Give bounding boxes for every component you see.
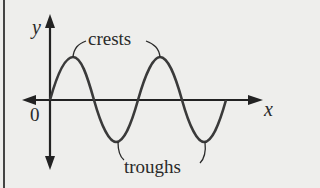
y-axis-down-arrow-icon — [45, 156, 55, 170]
trough-leader-2 — [200, 142, 205, 163]
x-axis-right-arrow-icon — [248, 95, 263, 105]
crest-leader-2 — [146, 41, 160, 57]
crest-leader-1 — [73, 41, 86, 57]
y-axis-up-arrow-icon — [45, 14, 55, 28]
troughs-label: troughs — [124, 156, 181, 178]
y-axis-label: y — [32, 16, 41, 39]
x-axis-label: x — [264, 98, 273, 121]
crests-label: crests — [88, 28, 131, 50]
origin-label: 0 — [30, 104, 40, 126]
